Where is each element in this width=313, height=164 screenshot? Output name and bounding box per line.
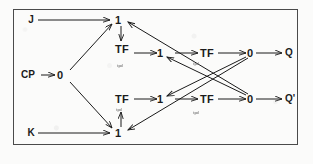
wire-cp0-to-bot1 bbox=[70, 82, 112, 128]
output-label-qbar: Q' bbox=[285, 94, 295, 104]
figure-canvas: J CP K 0 1 TF 1 TF 0 TF 1 TF 0 1 Q Q' tp… bbox=[0, 0, 313, 164]
annotation-delay-1: tpd bbox=[117, 64, 123, 68]
node-bot-zero: 0 bbox=[247, 94, 253, 105]
wire-cp0-to-top1 bbox=[70, 24, 112, 70]
annotation-delay-3: tpd bbox=[116, 108, 122, 112]
input-label-k: K bbox=[27, 128, 34, 138]
node-top-one-b: 1 bbox=[157, 48, 163, 59]
input-label-cp: CP bbox=[21, 70, 35, 80]
node-top-zero: 0 bbox=[247, 48, 253, 59]
node-top-one: 1 bbox=[115, 15, 121, 26]
node-bot-tf: TF bbox=[115, 94, 129, 105]
wire-top0-to-bot1 bbox=[128, 58, 248, 130]
node-bot-tf-2: TF bbox=[200, 94, 214, 105]
wire-bot0-to-top1 bbox=[128, 22, 248, 94]
node-cp-zero: 0 bbox=[57, 70, 63, 81]
node-top-tf: TF bbox=[115, 44, 129, 55]
input-label-j: J bbox=[28, 15, 34, 25]
output-label-q: Q bbox=[285, 48, 293, 58]
annotation-delay-2: tpd bbox=[193, 62, 199, 66]
annotation-delay-4: tpd bbox=[193, 111, 199, 115]
node-bot-one-b: 1 bbox=[157, 94, 163, 105]
node-bot-one: 1 bbox=[115, 128, 121, 139]
wire-layer bbox=[0, 0, 313, 164]
node-top-tf-2: TF bbox=[200, 48, 214, 59]
